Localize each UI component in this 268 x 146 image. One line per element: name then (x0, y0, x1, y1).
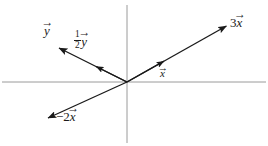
vector-symbol: y (81, 34, 87, 49)
fraction-numerator: 1 (74, 30, 81, 41)
vector-symbol: x (237, 15, 243, 30)
vector-label-half-y: 1 2 →y (74, 30, 87, 50)
vector-diagram-figure: →y 1 2 →y 3→x →x −2→x (0, 0, 268, 146)
vector-x-shaft (127, 61, 164, 82)
vector-name-x: →x (70, 110, 76, 123)
vector-name-x: →x (237, 16, 243, 29)
vector-label-3x: 3→x (230, 16, 243, 29)
vector-label-x: →x (160, 68, 165, 79)
vector-label-y: →y (44, 24, 50, 37)
vector-name-y: →y (81, 35, 87, 48)
vector-diagram-canvas (0, 0, 268, 146)
vector-symbol: x (160, 67, 165, 79)
vector-symbol: y (44, 23, 50, 38)
vector-label-negative-2x: −2→x (56, 110, 76, 123)
vector-name-x: →x (160, 68, 165, 79)
vector-name-y: →y (44, 24, 50, 37)
fraction-one-half: 1 2 (74, 30, 81, 50)
fraction-denominator: 2 (74, 41, 81, 51)
vector-symbol: x (70, 109, 76, 124)
vector-half-y-shaft (96, 67, 127, 83)
